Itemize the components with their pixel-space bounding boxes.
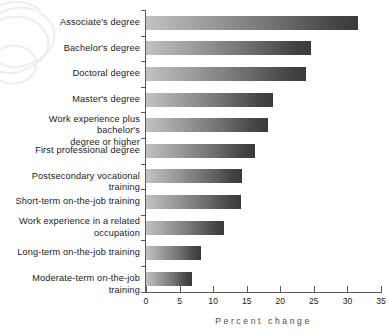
bar [146,221,224,235]
category-tick [141,240,146,241]
bar [146,246,201,260]
value-axis-line [145,292,382,293]
x-axis-tick [146,286,147,292]
x-axis-title: Percent change [146,316,381,326]
bar [146,144,255,158]
x-axis-tick [314,286,315,292]
bar-chart: Associate's degreeBachelor's degreeDocto… [0,0,389,333]
category-tick [141,215,146,216]
bar-row: Work experience in a related occupation [0,215,389,241]
bar-row: Bachelor's degree [0,36,389,62]
bar-row: Moderate-term on-the-job training [0,266,389,292]
x-axis-tick-label: 30 [332,296,362,306]
category-tick [141,138,146,139]
bar-row: Work experience plus bachelor's degree o… [0,112,389,138]
category-label: Bachelor's degree [4,43,140,54]
x-axis-tick-label: 35 [366,296,389,306]
x-axis-tick [247,286,248,292]
bar [146,67,306,81]
bar-row: Doctoral degree [0,61,389,87]
x-axis-tick-label: 10 [198,296,228,306]
category-label: Work experience in a related occupation [4,216,140,239]
category-tick [141,61,146,62]
bar-row: Long-term on-the-job training [0,240,389,266]
x-axis-tick [180,286,181,292]
category-tick [141,112,146,113]
x-axis-tick-label: 5 [165,296,195,306]
category-tick [141,164,146,165]
category-tick [141,266,146,267]
bar-row: First professional degree [0,138,389,164]
category-tick [141,189,146,190]
bar-row: Short-term on-the-job training [0,189,389,215]
category-label: Short-term on-the-job training [4,196,140,207]
bar [146,169,242,183]
bar [146,118,268,132]
bar [146,93,273,107]
category-label: Associate's degree [4,17,140,28]
x-axis-tick-label: 25 [299,296,329,306]
bar [146,195,241,209]
category-label: Doctoral degree [4,68,140,79]
category-tick [141,87,146,88]
x-axis-tick-label: 15 [232,296,262,306]
bar-row: Postsecondary vocational training [0,164,389,190]
category-tick [141,10,146,11]
x-axis-tick [347,286,348,292]
category-label: Long-term on-the-job training [4,247,140,258]
bar-row: Associate's degree [0,10,389,36]
x-axis-tick-label: 20 [265,296,295,306]
category-label: First professional degree [4,145,140,156]
bar-row: Master's degree [0,87,389,113]
category-label: Master's degree [4,94,140,105]
bar [146,272,192,286]
bar [146,41,311,55]
x-axis-tick [280,286,281,292]
bar [146,16,358,30]
category-tick [141,36,146,37]
x-axis-tick-label: 0 [131,296,161,306]
x-axis-tick [213,286,214,292]
category-label: Moderate-term on-the-job training [4,273,140,296]
x-axis-tick [381,286,382,292]
